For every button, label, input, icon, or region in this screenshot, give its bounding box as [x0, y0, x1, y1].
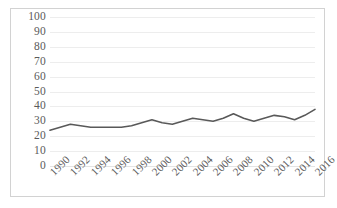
series-line-group [50, 17, 315, 166]
y-tick-label-90: 90 [34, 26, 46, 38]
y-tick-label-50: 50 [34, 86, 46, 98]
y-tick-label-30: 30 [34, 116, 46, 128]
y-tick-label-80: 80 [34, 41, 46, 53]
y-tick-label-60: 60 [34, 71, 46, 83]
y-axis-tick-labels: 1009080706050403020100 [16, 17, 46, 166]
series-line-series-1 [50, 109, 315, 130]
y-tick-label-70: 70 [34, 56, 46, 68]
y-tick-label-20: 20 [34, 130, 46, 142]
x-axis-tick-labels: 1990199219941996199820002002200420062008… [50, 166, 315, 206]
line-chart: 1009080706050403020100 19901992199419961… [0, 0, 337, 208]
y-tick-label-0: 0 [40, 160, 46, 172]
y-tick-label-10: 10 [34, 145, 46, 157]
plot-area [50, 17, 315, 166]
y-tick-label-40: 40 [34, 101, 46, 113]
y-tick-label-100: 100 [28, 11, 46, 23]
